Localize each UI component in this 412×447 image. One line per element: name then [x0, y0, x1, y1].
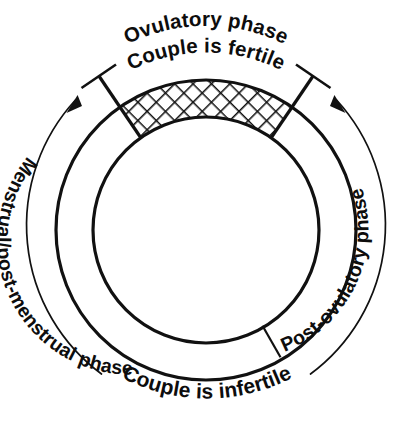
infertile-bracket-left-arrowhead — [67, 95, 83, 113]
right-boundary-tick — [292, 76, 313, 107]
ovulatory-crosshatch-fill — [40, 60, 380, 180]
phase-divider — [263, 326, 281, 357]
cycle-diagram: Ovulatory phase Couple is fertile Menstr… — [0, 0, 412, 447]
right-boundary-tick-cap — [296, 65, 331, 89]
ovulatory-phase-segment — [40, 60, 380, 180]
left-boundary-tick — [99, 76, 120, 107]
infertile-bracket-right-arrowhead — [330, 95, 346, 113]
cycle-diagram-svg: Ovulatory phase Couple is fertile Menstr… — [0, 0, 412, 447]
left-boundary-tick-cap — [82, 65, 117, 89]
ring-group — [40, 60, 380, 380]
infertile-bracket-group — [27, 95, 386, 374]
post-ovulatory-phase-label: Post-ovulatory phase — [277, 186, 372, 356]
ring-inner-edge — [93, 117, 319, 343]
menstrual-phase-label: Menstrual/post-menstrual phase — [0, 154, 133, 379]
